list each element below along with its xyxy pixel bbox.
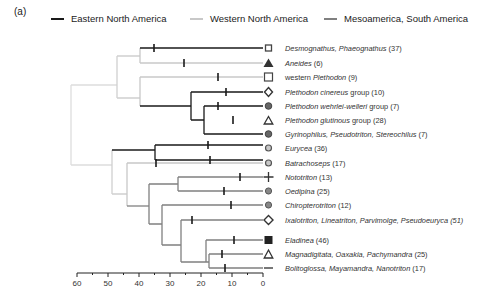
axis-tick-label: 60 bbox=[73, 279, 82, 288]
triangle-filled-icon bbox=[264, 59, 274, 68]
taxon-label: Eurycea (36) bbox=[285, 144, 327, 153]
taxon-label: Bolitoglossa, Mayamandra, Nanotriton (17… bbox=[285, 264, 426, 273]
phylogeny-figure: (a) Eastern North America Western North … bbox=[0, 0, 483, 290]
axis-tick-label: 40 bbox=[135, 279, 144, 288]
node-gyrinophilus-eurycea bbox=[155, 145, 263, 160]
taxon-label: Magnadigitata, Oaxakia, Pachymandra (25) bbox=[285, 250, 428, 259]
legend-item-eastern: Eastern North America bbox=[51, 13, 167, 24]
taxon-label: Oedipina (25) bbox=[285, 187, 330, 196]
taxon-label: Plethodon cinereus group (10) bbox=[285, 88, 384, 97]
branch-plethodontinae bbox=[117, 56, 140, 98]
triangle-open-icon bbox=[264, 117, 273, 125]
legend-label-meso: Mesoamerica, South America bbox=[344, 13, 469, 24]
node-magnadigitata bbox=[209, 254, 263, 268]
node-batrachoseps bbox=[127, 163, 263, 206]
circle-filled-icon bbox=[265, 188, 271, 194]
legend-label-eastern: Eastern North America bbox=[71, 13, 167, 24]
axis-tick-label: 10 bbox=[228, 279, 237, 288]
taxon-label: Plethodon wehrlei-welleri group (7) bbox=[285, 102, 399, 111]
taxon-label: Nototriton (13) bbox=[285, 173, 332, 182]
panel-label: (a) bbox=[14, 6, 26, 17]
time-axis: 60 50 40 30 20 10 0 bbox=[73, 273, 266, 288]
legend-item-western: Western North America bbox=[190, 13, 309, 24]
node-nototriton-oedipina bbox=[178, 177, 263, 191]
square-filled-icon bbox=[265, 236, 273, 244]
circle-filled-icon bbox=[265, 103, 272, 110]
taxon-label: western Plethodon (9) bbox=[284, 73, 357, 82]
axis-tick-label: 30 bbox=[166, 279, 175, 288]
taxon-label: Desmognathus, Phaeognathus (37) bbox=[285, 44, 402, 53]
circle-open-icon bbox=[266, 145, 272, 151]
taxon-label: Eladinea (46) bbox=[285, 236, 329, 245]
axis-ticks bbox=[77, 273, 263, 277]
divergence-ticks bbox=[154, 44, 240, 272]
node-chiropterotriton bbox=[162, 205, 263, 245]
axis-tick-label: 50 bbox=[104, 279, 113, 288]
legend-label-western: Western North America bbox=[210, 13, 309, 24]
square-open-icon bbox=[265, 73, 273, 81]
taxon-labels: Desmognathus, Phaeognathus (37) Aneides … bbox=[284, 44, 464, 273]
circle-filled-icon bbox=[265, 202, 271, 208]
taxon-label: Gyrinophilus, Pseudotriton, Stereochilus… bbox=[285, 130, 428, 139]
square-small-icon bbox=[266, 45, 272, 51]
node-112 bbox=[112, 150, 127, 194]
legend: Eastern North America Western North Amer… bbox=[51, 13, 469, 24]
tree bbox=[71, 48, 263, 268]
diamond-open-icon bbox=[264, 216, 273, 225]
taxon-label: Batrachoseps (17) bbox=[285, 159, 345, 168]
diamond-open-icon bbox=[265, 88, 273, 97]
taxon-label: Chiropterotriton (12) bbox=[285, 201, 351, 210]
root-branch bbox=[71, 85, 117, 165]
circle-filled-icon bbox=[265, 131, 272, 138]
legend-item-meso: Mesoamerica, South America bbox=[324, 13, 469, 24]
markers bbox=[264, 45, 274, 268]
axis-tick-label: 0 bbox=[261, 279, 266, 288]
triangle-open-icon bbox=[264, 250, 273, 258]
plus-icon bbox=[264, 172, 274, 182]
axis-tick-label: 20 bbox=[197, 279, 206, 288]
taxon-label: Ixalotriton, Lineatriton, Parvimolge, Ps… bbox=[285, 216, 464, 225]
node-149 bbox=[149, 184, 178, 224]
taxon-label: Plethodon glutinous group (28) bbox=[285, 116, 386, 125]
taxon-label: Aneides (6) bbox=[284, 59, 323, 68]
circle-open-icon bbox=[266, 160, 272, 166]
